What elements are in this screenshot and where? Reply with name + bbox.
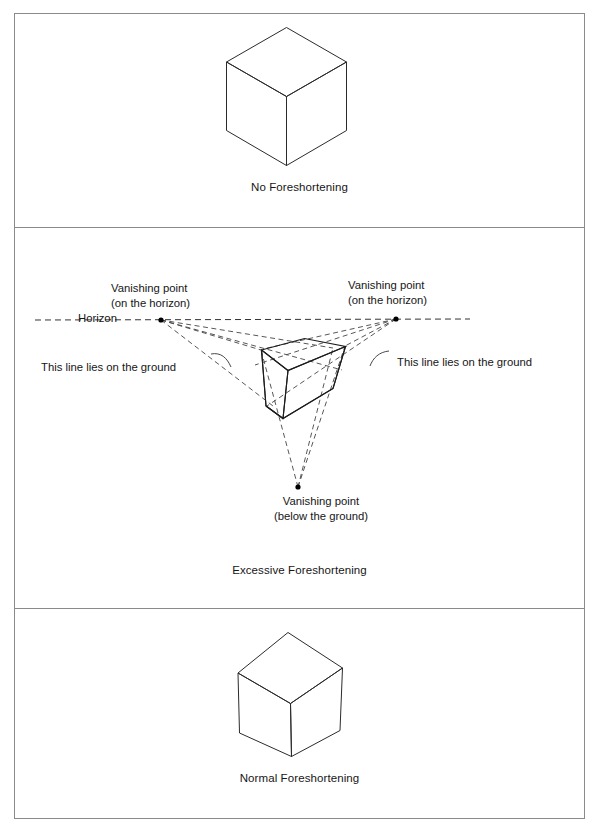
figure-root: No Foreshortening: [0, 0, 602, 833]
label-vp-left-line1: Vanishing point: [111, 281, 190, 296]
label-vp-right-line1: Vanishing point: [348, 278, 427, 293]
normal-foreshortening-cube-drawing: [15, 609, 584, 819]
label-vp-bottom-line1: Vanishing point: [251, 494, 391, 509]
panel-normal-foreshortening: Normal Foreshortening: [15, 609, 584, 819]
vanishing-point-left-dot: [158, 317, 163, 322]
panel-no-foreshortening: No Foreshortening: [15, 14, 584, 228]
isometric-cube-drawing: [15, 14, 584, 227]
vanishing-point-bottom-dot: [295, 484, 300, 489]
label-vanishing-point-left: Vanishing point (on the horizon): [111, 281, 190, 310]
leader-curve-left: [211, 354, 231, 367]
label-vanishing-point-right: Vanishing point (on the horizon): [348, 278, 427, 307]
label-vp-right-line2: (on the horizon): [348, 293, 427, 308]
vanishing-point-right-dot: [393, 316, 398, 321]
caption-no-foreshortening: No Foreshortening: [15, 181, 584, 193]
label-horizon: Horizon: [78, 311, 117, 326]
label-vp-left-line2: (on the horizon): [111, 296, 190, 311]
label-vp-bottom-line2: (below the ground): [251, 509, 391, 524]
perspective-construction-drawing: [15, 228, 584, 608]
figure-frame: No Foreshortening: [14, 13, 585, 819]
label-ground-line-left: This line lies on the ground: [41, 360, 176, 375]
ground-plane-edges: [266, 389, 333, 419]
convergence-lines-bottom-vp: [261, 346, 345, 487]
label-vanishing-point-bottom: Vanishing point (below the ground): [251, 494, 391, 523]
label-ground-line-right: This line lies on the ground: [397, 355, 532, 370]
leader-curve-right: [370, 351, 389, 366]
panel-excessive-foreshortening: Vanishing point (on the horizon) Vanishi…: [15, 228, 584, 609]
convergence-lines-left-vp: [161, 320, 342, 406]
caption-normal-foreshortening: Normal Foreshortening: [15, 772, 584, 784]
caption-excessive-foreshortening: Excessive Foreshortening: [15, 564, 584, 576]
